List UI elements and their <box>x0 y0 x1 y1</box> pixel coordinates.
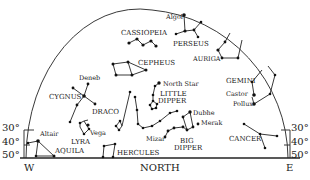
constellation-hercules: HERCULES <box>102 143 160 159</box>
label-gemini: GEMINI <box>226 77 256 85</box>
star-label-mizar: Mizar <box>146 135 166 143</box>
altitude-label-30-east: 30° <box>291 122 309 133</box>
altitude-label-40-west: 40° <box>2 136 20 147</box>
label-aquila: AQUILA <box>54 147 85 155</box>
star-label-altair: Altair <box>39 130 59 138</box>
star-label-vega: Vega <box>89 129 106 137</box>
label-cygnus: CYGNUS <box>49 93 82 101</box>
altitude-scale-west: 30° 40° 50° <box>2 122 34 160</box>
label-hercules: HERCULES <box>117 149 159 157</box>
constellation-auriga: AURIGA <box>192 33 242 63</box>
label-cepheus: CEPHEUS <box>138 59 175 67</box>
label-big-dipper-line2: DIPPER <box>174 144 203 152</box>
altitude-label-50-east: 50° <box>291 149 309 160</box>
direction-east: E <box>286 162 293 173</box>
constellation-perseus: Algol PERSEUS <box>165 13 209 48</box>
label-auriga: AURIGA <box>192 55 221 63</box>
star-label-pollux: Pollux <box>233 100 253 108</box>
constellation-cassiopeia: CASSIOPEIA <box>121 29 168 48</box>
constellation-big-dipper: Dubhe Merak Mizar BIG DIPPER <box>146 109 222 152</box>
constellation-lyra: Vega LYRA <box>71 120 106 146</box>
star-label-dubhe: Dubhe <box>193 109 215 117</box>
altitude-label-40-east: 40° <box>291 136 309 147</box>
star-label-algol: Algol <box>165 13 183 21</box>
label-lyra: LYRA <box>71 138 91 146</box>
altitude-scale-east: 30° 40° 50° <box>281 122 309 160</box>
star-label-merak: Merak <box>201 119 222 127</box>
constellation-little-dipper: North Star LITTLE DIPPER <box>149 80 200 110</box>
direction-west: W <box>24 162 35 173</box>
label-perseus: PERSEUS <box>173 40 209 48</box>
altitude-label-50-west: 50° <box>2 149 20 160</box>
constellation-gemini: GEMINI Castor Pollux <box>226 66 276 108</box>
star-chart: 30° 40° 50° 30° 40° 50° W NORTH E CASSIO… <box>0 0 310 180</box>
star-label-deneb: Deneb <box>79 74 100 82</box>
label-draco: DRACO <box>92 108 119 116</box>
label-cancer: CANCER <box>229 135 262 143</box>
constellation-cancer: CANCER <box>229 123 278 150</box>
constellation-cepheus: CEPHEUS <box>112 59 176 77</box>
altitude-label-30-west: 30° <box>2 122 20 133</box>
direction-north: NORTH <box>140 162 180 173</box>
star-label-castor: Castor <box>226 90 249 98</box>
star-label-north-star: North Star <box>163 80 200 88</box>
label-little-dipper-line2: DIPPER <box>158 97 187 105</box>
label-cassiopeia: CASSIOPEIA <box>121 29 168 37</box>
